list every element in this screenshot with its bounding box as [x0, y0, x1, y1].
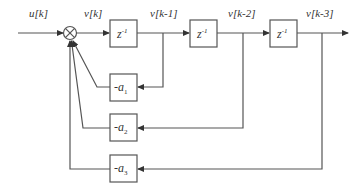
v-label: v[k]	[84, 7, 102, 19]
tap-1-wire	[138, 33, 163, 87]
delay-block-3: z-1	[270, 20, 297, 47]
gain-block-a1: -a1	[110, 74, 137, 101]
gain-block-a3: -a3	[110, 155, 137, 182]
gain-block-a2: -a2	[110, 114, 137, 141]
tap-3-wire	[138, 33, 322, 169]
v-k2-label: v[k-2]	[228, 7, 256, 19]
block-diagram: u[k] v[k] z-1 v[k-1] z-1 v[k-2] z-1 v[k-…	[0, 0, 363, 189]
summing-junction	[64, 27, 77, 40]
v-k3-label: v[k-3]	[306, 7, 334, 19]
delay-block-2: z-1	[190, 20, 217, 47]
delay-block-1: z-1	[110, 20, 137, 47]
feedback-a2-wire	[72, 41, 111, 128]
feedback-a3-wire	[70, 41, 110, 169]
feedback-a1-wire	[73, 41, 110, 87]
input-label: u[k]	[29, 7, 48, 19]
v-k1-label: v[k-1]	[150, 7, 178, 19]
